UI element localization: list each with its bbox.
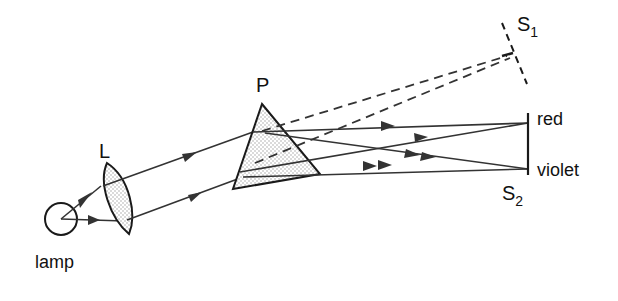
prism-label: P [256, 74, 269, 96]
screen-s2-label: S2 [502, 182, 523, 209]
red-label: red [537, 109, 563, 129]
lens-label: L [99, 140, 110, 162]
lamp-label: lamp [35, 252, 74, 272]
violet-label: violet [537, 160, 579, 180]
lens-l [104, 163, 132, 234]
arrow-icon [182, 152, 202, 202]
prism-dispersion-diagram: lamp L P S1 S2 red violet [0, 0, 618, 301]
screen-s1-label: S1 [517, 13, 538, 40]
s1-focus-mark [502, 53, 513, 56]
